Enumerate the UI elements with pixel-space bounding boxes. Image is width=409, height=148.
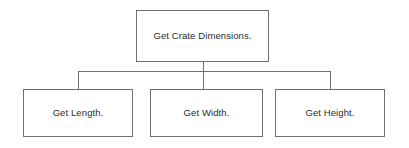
node-label: Get Width. <box>184 108 230 118</box>
connector-horizontal-bus <box>78 71 331 72</box>
structure-chart-canvas: Get Crate Dimensions. Get Length. Get Wi… <box>0 0 409 148</box>
connector-stub-get-length <box>78 71 79 89</box>
node-get-height[interactable]: Get Height. <box>275 89 385 137</box>
node-get-length[interactable]: Get Length. <box>23 89 133 137</box>
node-label: Get Length. <box>53 108 104 118</box>
connector-stub-get-height <box>330 71 331 89</box>
node-get-width[interactable]: Get Width. <box>150 89 263 137</box>
node-get-crate-dimensions[interactable]: Get Crate Dimensions. <box>136 10 269 62</box>
connector-stub-get-width <box>203 71 204 89</box>
node-label: Get Height. <box>305 108 354 118</box>
node-label: Get Crate Dimensions. <box>153 31 251 41</box>
